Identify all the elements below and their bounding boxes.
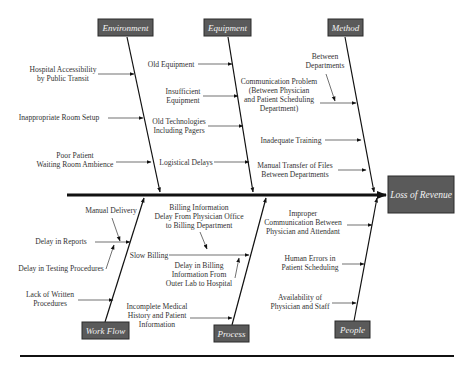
category-label-process: Process (216, 329, 246, 339)
cause-item: Hospital Accessibilityby Public Transit (30, 65, 134, 83)
category-label-equipment: Equipment (207, 23, 247, 33)
bone-people (354, 198, 377, 321)
cause-item: Inappropriate Room Setup (19, 113, 143, 122)
cause-item: Communication Problem(Between Physiciana… (241, 77, 356, 113)
subcause-item: Delay in BillingInformation FromOuter La… (166, 258, 239, 288)
cause-item: Slow Billing (130, 251, 249, 260)
svg-text:Manual Delivery: Manual Delivery (85, 206, 137, 215)
cause-item: InsufficientEquipment (166, 87, 238, 105)
subcause-item: Billing InformationDelay From Physician … (154, 203, 244, 249)
svg-text:Delay in Reports: Delay in Reports (35, 237, 87, 246)
category-people: People ImproperCommunication BetweenPhys… (264, 198, 377, 338)
svg-text:Incomplete MedicalHistory and: Incomplete MedicalHistory and PatientInf… (127, 302, 188, 329)
bone-equipment (228, 37, 253, 192)
cause-item: Delay in Reports (35, 237, 130, 246)
svg-text:Old Equipment: Old Equipment (148, 60, 196, 69)
svg-text:Billing InformationDelay From: Billing InformationDelay From Physician … (154, 203, 244, 230)
category-label-environment: Environment (101, 23, 149, 33)
cause-item: Manual Transfer of FilesBetween Departme… (257, 161, 366, 179)
cause-item: Old TechnologiesIncluding Pagers (152, 117, 243, 135)
cause-item: Poor PatientWaiting Room Ambience (36, 151, 151, 169)
svg-text:Communication Problem(Between: Communication Problem(Between Physiciana… (241, 77, 318, 113)
svg-text:Inadequate Training: Inadequate Training (261, 136, 322, 145)
svg-text:Inappropriate Room Setup: Inappropriate Room Setup (19, 113, 100, 122)
cause-item: Old Equipment (148, 60, 232, 69)
cause-item: ImproperCommunication BetweenPhysician a… (264, 209, 372, 236)
svg-text:Manual Transfer of FilesBetwee: Manual Transfer of FilesBetween Departme… (257, 161, 332, 179)
cause-item: Inadequate Training (261, 136, 361, 145)
svg-text:Lack of WrittenProcedures: Lack of WrittenProcedures (26, 290, 74, 308)
svg-text:Old TechnologiesIncluding Page: Old TechnologiesIncluding Pagers (152, 117, 206, 135)
svg-text:Poor PatientWaiting Room Ambie: Poor PatientWaiting Room Ambience (36, 151, 114, 169)
effect-box: Loss of Revenue (388, 176, 454, 213)
subcause-item: Manual Delivery (85, 206, 137, 241)
cause-item: Lack of WrittenProcedures (26, 290, 113, 308)
svg-text:ImproperCommunication BetweenP: ImproperCommunication BetweenPhysician a… (264, 209, 342, 236)
category-label-workflow: Work Flow (86, 326, 125, 336)
category-method: Method BetweenDepartments Communication … (241, 19, 374, 192)
svg-text:Slow Billing: Slow Billing (130, 251, 169, 260)
subcause-item: Delay in Testing Procedures (18, 245, 114, 273)
svg-text:InsufficientEquipment: InsufficientEquipment (166, 87, 202, 105)
svg-text:Availability ofPhysician and S: Availability ofPhysician and Staff (271, 293, 330, 311)
svg-text:Logistical Delays: Logistical Delays (159, 158, 212, 167)
category-label-people: People (339, 325, 365, 335)
effect-label: Loss of Revenue (389, 190, 452, 200)
svg-text:Hospital Accessibilityby Publi: Hospital Accessibilityby Public Transit (30, 65, 97, 83)
category-environment: Environment Hospital Accessibilityby Pub… (19, 19, 160, 192)
svg-text:Delay in BillingInformation Fr: Delay in BillingInformation FromOuter La… (166, 261, 232, 288)
category-workflow: Work Flow Manual Delivery Delay in Repor… (18, 198, 144, 339)
category-label-method: Method (331, 23, 360, 33)
bone-method (345, 37, 374, 192)
category-equipment: Equipment Old Equipment InsufficientEqui… (148, 19, 253, 192)
svg-text:Delay in Testing Procedures: Delay in Testing Procedures (18, 264, 104, 273)
svg-text:Human Errors inPatient Schedul: Human Errors inPatient Scheduling (281, 254, 338, 272)
category-process: Process Billing InformationDelay From Ph… (127, 198, 266, 342)
cause-item: Logistical Delays (159, 158, 249, 167)
cause-item: Availability ofPhysician and Staff (271, 293, 356, 311)
fishbone-diagram: Loss of Revenue Environment Hospital Acc… (0, 0, 471, 365)
svg-text:BetweenDepartments: BetweenDepartments (306, 52, 345, 70)
cause-item: Human Errors inPatient Scheduling (281, 254, 364, 272)
